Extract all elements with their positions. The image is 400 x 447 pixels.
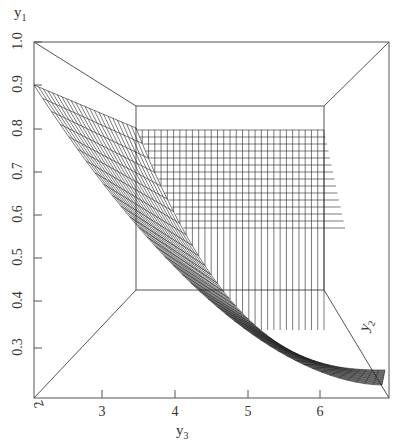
y1-tick-label: 0.3 xyxy=(10,332,26,362)
surface-plot xyxy=(0,0,400,447)
y1-tick-label: 0.9 xyxy=(10,69,26,99)
y1-tick-label: 0.5 xyxy=(10,242,26,272)
y1-tick-label: 0.6 xyxy=(10,199,26,229)
y1-tick-label: 1.0 xyxy=(10,26,26,56)
y1-tick-label: 0.4 xyxy=(10,285,26,315)
y3-tick-label: 3 xyxy=(92,404,112,420)
y1-axis-label: y1 xyxy=(14,4,27,23)
y1-tick-label: 0.8 xyxy=(10,113,26,143)
y3-tick-label: 6 xyxy=(310,404,330,420)
y3-tick-label: 5 xyxy=(238,404,258,420)
wireframe-surface xyxy=(34,85,385,385)
y1-tick-label: 0.7 xyxy=(10,156,26,186)
y3-axis-label: y3 xyxy=(176,422,189,441)
y3-tick-label: 4 xyxy=(165,404,185,420)
